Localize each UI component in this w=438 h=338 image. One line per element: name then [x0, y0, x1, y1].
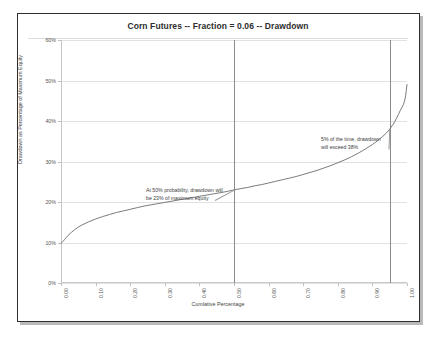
x-tick-mark — [130, 283, 131, 286]
x-tick-mark — [407, 283, 408, 286]
x-tick-mark — [234, 283, 235, 286]
x-tick-label: 0.80 — [340, 288, 346, 298]
tail-annotation-line2: will exceed 38% — [321, 144, 381, 152]
screenshot-canvas: Corn Futures -- Fraction = 0.06 -- Drawd… — [0, 0, 438, 338]
x-tick-mark — [372, 283, 373, 286]
y-tick-label: 20% — [45, 199, 56, 205]
y-axis-title: Drawdown as Percentage of Maximum Equity — [17, 55, 23, 164]
x-tick-mark — [303, 283, 304, 286]
y-tick-label: 50% — [45, 78, 56, 84]
x-tick-label: 0.10 — [98, 288, 104, 298]
chart-card: Corn Futures -- Fraction = 0.06 -- Drawd… — [18, 14, 418, 320]
drawdown-curve — [61, 85, 407, 244]
x-tick-label: 0.30 — [167, 288, 173, 298]
x-axis-title: Cumlative Percentage — [18, 301, 418, 307]
tail-annotation-line1: 5% of the time, drawdown — [321, 136, 381, 144]
x-tick-mark — [199, 283, 200, 286]
chart-title: Corn Futures -- Fraction = 0.06 -- Drawd… — [18, 21, 418, 31]
x-tick-mark — [61, 283, 62, 286]
x-tick-mark — [96, 283, 97, 286]
x-tick-label: 0.70 — [305, 288, 311, 298]
median-annotation: At 50% probability, drawdown will be 23%… — [146, 187, 223, 202]
data-series-svg — [61, 40, 407, 283]
x-tick-label: 0.90 — [374, 288, 380, 298]
x-tick-mark — [269, 283, 270, 286]
y-tick-label: 30% — [45, 159, 56, 165]
x-tick-mark — [338, 283, 339, 286]
y-tick-label: 60% — [45, 37, 56, 43]
x-tick-label: 0.20 — [132, 288, 138, 298]
x-tick-label: 1.00 — [409, 288, 415, 298]
title-divider — [28, 38, 408, 39]
median-annotation-line1: At 50% probability, drawdown will — [146, 187, 223, 195]
x-tick-label: 0.50 — [236, 288, 242, 298]
x-tick-label: 0.40 — [201, 288, 207, 298]
median-annotation-line2: be 23% of maximum equity — [146, 195, 223, 203]
y-tick-label: 10% — [45, 240, 56, 246]
tail-annotation: 5% of the time, drawdown will exceed 38% — [321, 136, 381, 151]
x-tick-label: 0.00 — [63, 288, 69, 298]
x-tick-label: 0.60 — [271, 288, 277, 298]
plot-area: 0%10%20%30%40%50%60% 0.000.100.200.300.4… — [61, 40, 407, 283]
y-tick-label: 0% — [48, 280, 56, 286]
x-tick-mark — [165, 283, 166, 286]
y-tick-label: 40% — [45, 118, 56, 124]
